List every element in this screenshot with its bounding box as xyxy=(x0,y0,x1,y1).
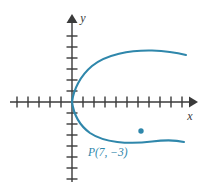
graph-figure: x xyxy=(0,0,211,185)
parabola-upper-branch xyxy=(72,50,186,102)
x-axis-arrow-icon xyxy=(189,97,198,108)
x-axis: x xyxy=(10,97,198,124)
point-marker-p xyxy=(138,128,143,133)
parabola-lower-branch xyxy=(72,102,184,143)
point-label-p: P(7, −3) xyxy=(87,146,128,159)
y-axis-label: y xyxy=(79,11,86,25)
coordinate-plane-svg: x xyxy=(0,0,211,185)
parabola-curve-group xyxy=(72,50,186,142)
y-axis-arrow-icon xyxy=(67,14,78,23)
x-axis-label: x xyxy=(186,109,193,123)
